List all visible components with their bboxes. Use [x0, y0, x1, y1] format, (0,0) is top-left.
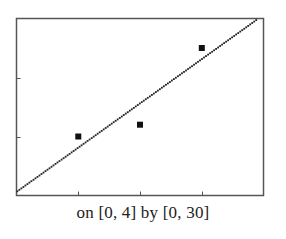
line-pixel: [151, 94, 153, 96]
line-pixel: [67, 154, 69, 156]
line-pixel: [201, 58, 203, 60]
line-pixel: [37, 176, 39, 178]
line-pixel: [157, 90, 159, 92]
line-pixel: [229, 38, 231, 40]
line-pixel: [109, 124, 111, 126]
line-pixel: [49, 167, 51, 169]
line-pixel: [205, 55, 207, 57]
line-pixel: [111, 123, 113, 125]
line-pixel: [163, 85, 165, 87]
line-pixel: [147, 97, 149, 99]
line-pixel: [91, 137, 93, 139]
line-pixel: [161, 87, 163, 89]
line-pixel: [77, 147, 79, 149]
line-pixel: [171, 80, 173, 82]
line-pixel: [141, 101, 143, 103]
line-pixel: [169, 81, 171, 83]
line-pixel: [253, 21, 255, 23]
line-pixel: [39, 175, 41, 177]
line-pixel: [89, 139, 91, 141]
line-pixel: [33, 179, 35, 181]
plot-frame: [17, 19, 264, 196]
line-pixel: [225, 41, 227, 43]
line-pixel: [223, 42, 225, 44]
line-pixel: [127, 111, 129, 113]
line-pixel: [113, 121, 115, 123]
data-point: [137, 122, 143, 128]
line-pixel: [93, 136, 95, 138]
line-pixel: [107, 126, 109, 128]
line-pixel: [177, 75, 179, 77]
line-pixel: [31, 180, 33, 182]
line-pixel: [131, 108, 133, 110]
line-pixel: [219, 45, 221, 47]
line-pixel: [235, 34, 237, 36]
line-pixel: [203, 57, 205, 59]
line-pixel: [55, 163, 57, 165]
line-pixel: [59, 160, 61, 162]
line-pixel: [167, 83, 169, 85]
line-pixel: [19, 189, 21, 191]
line-pixel: [53, 165, 55, 167]
line-pixel: [51, 166, 53, 168]
line-pixel: [165, 84, 167, 86]
line-pixel: [43, 172, 45, 174]
line-pixel: [129, 110, 131, 112]
line-pixel: [45, 170, 47, 172]
scatter-plot: [0, 0, 286, 200]
line-pixel: [137, 104, 139, 106]
data-point: [75, 134, 81, 140]
line-pixel: [199, 60, 201, 62]
window-caption: on [0, 4] by [0, 30]: [0, 203, 286, 223]
line-pixel: [155, 91, 157, 93]
line-pixel: [135, 106, 137, 108]
line-pixel: [85, 142, 87, 144]
line-pixel: [195, 62, 197, 64]
line-pixel: [103, 129, 105, 131]
line-pixel: [41, 173, 43, 175]
line-pixel: [181, 72, 183, 74]
line-pixel: [251, 22, 253, 24]
line-pixel: [217, 47, 219, 49]
line-pixel: [173, 78, 175, 80]
line-pixel: [63, 157, 65, 159]
line-pixel: [207, 54, 209, 56]
line-pixel: [221, 44, 223, 46]
line-pixel: [159, 88, 161, 90]
line-pixel: [95, 134, 97, 136]
line-pixel: [149, 96, 151, 98]
line-pixel: [197, 61, 199, 63]
line-pixel: [231, 37, 233, 39]
line-pixel: [87, 140, 89, 142]
line-pixel: [29, 182, 31, 184]
line-pixel: [243, 28, 245, 30]
line-pixel: [117, 119, 119, 121]
line-pixel: [153, 93, 155, 95]
line-pixel: [17, 190, 19, 192]
line-pixel: [247, 25, 249, 27]
line-pixel: [239, 31, 241, 33]
line-pixel: [209, 52, 211, 54]
line-pixel: [227, 39, 229, 41]
line-pixel: [191, 65, 193, 67]
line-pixel: [215, 48, 217, 50]
line-pixel: [249, 24, 251, 26]
line-pixel: [99, 131, 101, 133]
line-pixel: [71, 152, 73, 154]
line-pixel: [241, 29, 243, 31]
line-pixel: [75, 149, 77, 151]
data-points: [75, 45, 205, 140]
line-pixel: [183, 71, 185, 73]
line-pixel: [61, 159, 63, 161]
line-pixel: [35, 177, 37, 179]
line-pixel: [119, 117, 121, 119]
data-point: [199, 45, 205, 51]
line-pixel: [47, 169, 49, 171]
line-pixel: [123, 114, 125, 116]
line-pixel: [97, 133, 99, 135]
line-pixel: [175, 77, 177, 79]
line-pixel: [65, 156, 67, 158]
line-pixel: [193, 64, 195, 66]
line-pixel: [125, 113, 127, 115]
line-pixel: [255, 19, 257, 21]
